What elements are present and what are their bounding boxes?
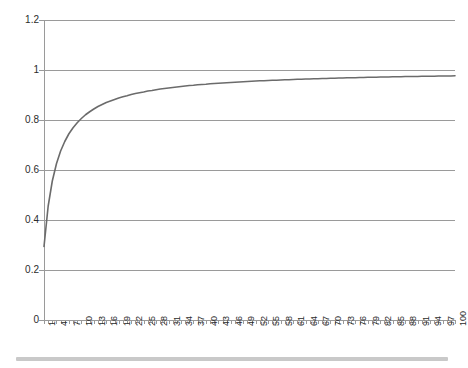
gridline bbox=[44, 270, 455, 271]
x-axis-tick-mark bbox=[44, 320, 45, 324]
x-axis-tick-label: 55 bbox=[272, 316, 281, 326]
gridline bbox=[44, 170, 455, 171]
x-axis-tick-label: 10 bbox=[85, 316, 94, 326]
x-axis-tick-label: 28 bbox=[160, 316, 169, 326]
y-axis-tick-label: 0.6 bbox=[25, 165, 39, 175]
x-axis-tick-label: 52 bbox=[260, 316, 269, 326]
x-axis-tick-label: 70 bbox=[334, 316, 343, 326]
y-axis-tick-mark bbox=[39, 70, 44, 71]
x-axis-tick-mark bbox=[343, 320, 344, 324]
x-axis-tick-label: 67 bbox=[322, 316, 331, 326]
x-axis-tick-label: 37 bbox=[197, 316, 206, 326]
x-axis-tick-label: 19 bbox=[123, 316, 132, 326]
x-axis-tick-label: 49 bbox=[247, 316, 256, 326]
x-axis-tick-label: 79 bbox=[372, 316, 381, 326]
x-axis-tick-label: 31 bbox=[173, 316, 182, 326]
x-axis-tick-label: 85 bbox=[397, 316, 406, 326]
x-axis-tick-label: 88 bbox=[409, 316, 418, 326]
x-axis-tick-label: 94 bbox=[434, 316, 443, 326]
x-axis-tick-label: 43 bbox=[222, 316, 231, 326]
x-axis-tick-label: 61 bbox=[297, 316, 306, 326]
x-axis-tick-label: 4 bbox=[60, 321, 69, 326]
x-axis-tick-label: 64 bbox=[310, 316, 319, 326]
x-axis-tick-label: 25 bbox=[148, 316, 157, 326]
x-axis-tick-label: 76 bbox=[359, 316, 368, 326]
plot-area bbox=[44, 20, 455, 320]
x-axis-tick-label: 16 bbox=[110, 316, 119, 326]
y-axis-tick-label: 0.2 bbox=[25, 265, 39, 275]
y-axis-tick-label: 0.8 bbox=[25, 115, 39, 125]
x-axis-tick-label: 34 bbox=[185, 316, 194, 326]
gridline bbox=[44, 120, 455, 121]
x-axis-tick-mark bbox=[69, 320, 70, 324]
gridline bbox=[44, 220, 455, 221]
y-axis-tick-mark bbox=[39, 270, 44, 271]
x-axis-tick-label: 13 bbox=[98, 316, 107, 326]
y-axis-tick-mark bbox=[39, 20, 44, 21]
y-axis-tick-label: 1.2 bbox=[25, 15, 39, 25]
x-axis-tick-label: 58 bbox=[285, 316, 294, 326]
y-axis-tick-label: 0.4 bbox=[25, 215, 39, 225]
gridline bbox=[44, 20, 455, 21]
x-axis-tick-label: 40 bbox=[210, 316, 219, 326]
y-axis-tick-mark bbox=[39, 170, 44, 171]
x-axis-tick-label: 97 bbox=[447, 316, 456, 326]
y-axis-labels: 00.20.40.60.811.2 bbox=[0, 0, 39, 368]
y-axis-tick-mark bbox=[39, 120, 44, 121]
x-axis-tick-label: 22 bbox=[135, 316, 144, 326]
gridline bbox=[44, 70, 455, 71]
y-axis-tick-mark bbox=[39, 220, 44, 221]
x-axis-tick-mark bbox=[206, 320, 207, 324]
x-axis-tick-label: 100 bbox=[459, 311, 468, 326]
x-axis-tick-label: 73 bbox=[347, 316, 356, 326]
x-axis-tick-label: 7 bbox=[73, 321, 82, 326]
x-axis-tick-label: 1 bbox=[48, 321, 57, 326]
bottom-scrollbar[interactable] bbox=[16, 357, 448, 361]
x-axis-tick-label: 91 bbox=[422, 316, 431, 326]
x-axis-tick-label: 46 bbox=[235, 316, 244, 326]
x-axis-tick-label: 82 bbox=[384, 316, 393, 326]
